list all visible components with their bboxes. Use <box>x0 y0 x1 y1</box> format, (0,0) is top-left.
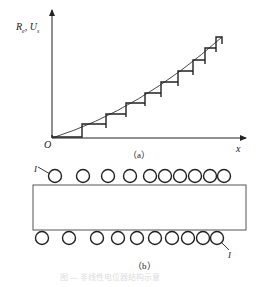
turn-circle <box>36 232 49 245</box>
turn-circle <box>63 232 76 245</box>
turn-circle <box>189 170 202 183</box>
top-winding-turns <box>49 170 231 183</box>
turn-circle <box>149 232 162 245</box>
ideal-curve <box>52 37 222 138</box>
leader-line-bottom <box>221 242 229 250</box>
turn-circle <box>174 170 187 183</box>
turn-circle <box>49 170 62 183</box>
turn-circle <box>102 170 115 183</box>
diagram-canvas <box>0 0 261 287</box>
staircase-curve <box>52 37 222 137</box>
turn-circle <box>144 170 157 183</box>
core-rectangle <box>33 185 246 230</box>
turn-circle <box>197 232 210 245</box>
origin-label: O <box>44 139 51 150</box>
turn-circle <box>131 232 144 245</box>
y-axis-label: Re, Us <box>16 21 39 34</box>
turn-circle <box>166 232 179 245</box>
panel-a <box>52 10 246 138</box>
turn-circle <box>182 232 195 245</box>
leader-line-top <box>38 167 50 174</box>
turn-circle <box>124 170 137 183</box>
current-label-top: I <box>34 164 37 174</box>
turn-circle <box>159 170 172 183</box>
panel-b <box>33 167 246 250</box>
x-axis-label: x <box>236 143 240 154</box>
figure: Re, Us O x （a） I I （b） 图 — 非线性电位器结构示意 <box>0 0 261 287</box>
turn-circle <box>204 170 217 183</box>
current-label-bottom: I <box>228 250 231 260</box>
figure-title-faint: 图 — 非线性电位器结构示意 <box>60 271 160 282</box>
turn-circle <box>77 170 90 183</box>
turn-circle <box>218 170 231 183</box>
turn-circle <box>91 232 104 245</box>
bottom-winding-turns <box>36 232 224 245</box>
caption-a: （a） <box>128 148 150 161</box>
turn-circle <box>112 232 125 245</box>
